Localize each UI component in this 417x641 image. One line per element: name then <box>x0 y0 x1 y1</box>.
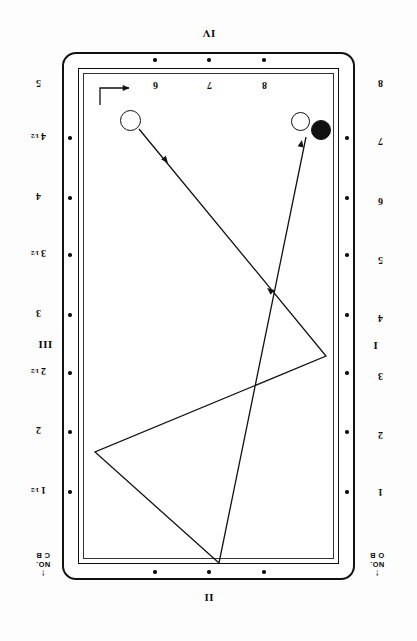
left-rail-number-3: 3 1⁄2 <box>18 248 58 258</box>
cue-direction-marker <box>99 84 137 106</box>
diamond-bottom-1 <box>207 570 210 573</box>
diamond-top-0 <box>153 58 156 61</box>
diamond-left-6 <box>68 490 71 493</box>
left-rail-number-5: 2 1⁄2 <box>18 366 58 376</box>
diamond-bottom-0 <box>153 570 156 573</box>
diamond-right-6 <box>345 490 348 493</box>
right-rail-number-5: 3 <box>360 371 400 381</box>
rail-label-left: III <box>30 339 60 350</box>
corner-note-cue-ball: ↑ NO. C B <box>26 551 60 578</box>
diamond-bottom-2 <box>262 570 265 573</box>
left-rail-number-4: 3 <box>18 308 58 318</box>
object-ball-1 <box>291 112 310 131</box>
diamond-top-1 <box>207 58 210 61</box>
diamond-left-0 <box>68 136 71 139</box>
diamond-top-2 <box>262 58 265 61</box>
rail-label-right: I <box>360 340 390 351</box>
corner-note-right-line1: NO. <box>360 560 394 569</box>
diamond-left-3 <box>68 313 71 316</box>
diamond-left-5 <box>68 430 71 433</box>
left-rail-number-6: 2 <box>18 425 58 435</box>
diamond-right-2 <box>345 253 348 256</box>
diamond-left-1 <box>68 196 71 199</box>
right-rail-number-0: 8 <box>360 78 400 88</box>
diamond-left-2 <box>68 253 71 256</box>
corner-note-left-line2: C B <box>26 551 60 560</box>
cue-ball <box>120 110 141 131</box>
right-rail-number-4: 4 <box>360 313 400 323</box>
right-rail-number-3: 5 <box>360 255 400 265</box>
right-rail-number-7: 1 <box>360 487 400 497</box>
right-rail-number-1: 7 <box>360 136 400 146</box>
top-rail-number-0: 6 <box>143 80 167 90</box>
left-rail-number-2: 4 <box>18 191 58 201</box>
left-rail-number-7: 1 1⁄2 <box>18 485 58 495</box>
corner-note-right-line2: O B <box>360 551 394 560</box>
top-rail-number-2: 8 <box>252 80 276 90</box>
diamond-right-0 <box>345 136 348 139</box>
right-rail-number-2: 6 <box>360 196 400 206</box>
right-rail-number-6: 2 <box>360 430 400 440</box>
diamond-right-3 <box>345 313 348 316</box>
corner-note-left-arrow: ↑ <box>26 569 60 578</box>
rail-label-bottom: II <box>0 592 417 603</box>
diagram-page: IV II III I 678 54 1⁄243 1⁄232 1⁄221 1⁄2… <box>0 0 417 641</box>
corner-note-left-line1: NO. <box>26 560 60 569</box>
diamond-right-4 <box>345 371 348 374</box>
corner-note-right-arrow: ↑ <box>360 569 394 578</box>
diamond-right-5 <box>345 430 348 433</box>
rail-label-top: IV <box>0 28 417 39</box>
top-rail-number-1: 7 <box>197 80 221 90</box>
left-rail-number-1: 4 1⁄2 <box>18 131 58 141</box>
object-ball-2 <box>311 120 331 140</box>
corner-note-object-ball: ↑ NO. O B <box>360 551 394 578</box>
left-rail-number-0: 5 <box>18 78 58 88</box>
diamond-left-4 <box>68 371 71 374</box>
table-playing-surface <box>83 73 334 559</box>
diamond-right-1 <box>345 196 348 199</box>
